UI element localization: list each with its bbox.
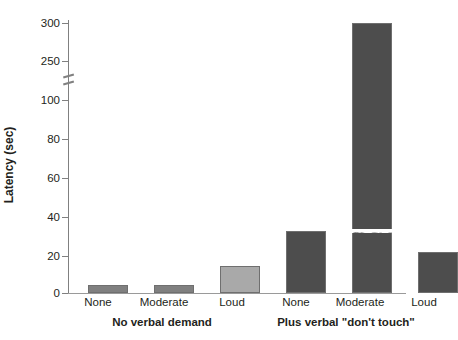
y-axis-title-label: Latency (sec) <box>2 110 16 220</box>
y-tick-300 <box>62 23 68 24</box>
x-label-none-plus-verbal: None <box>266 296 326 308</box>
y-tick-label-0: 0 <box>26 288 60 300</box>
y-tick-100 <box>62 100 68 101</box>
x-axis-line <box>68 293 406 294</box>
bar-moderate-plus-verbal <box>352 23 392 293</box>
y-tick-label-60: 60 <box>26 173 60 185</box>
y-tick-label-300: 300 <box>26 18 60 30</box>
x-label-loud-plus-verbal: Loud <box>396 296 452 308</box>
group-label-plus-verbal-dont-touch: Plus verbal "don't touch" <box>240 316 452 328</box>
x-label-moderate-plus-verbal: Moderate <box>324 296 396 308</box>
y-axis-line <box>68 20 69 293</box>
bar-none-plus-verbal <box>286 231 326 293</box>
group-label-no-verbal-demand: No verbal demand <box>62 316 262 328</box>
bar-loud-plus-verbal <box>418 252 458 293</box>
bar-none-no-verbal <box>88 285 128 293</box>
y-tick-label-250: 250 <box>26 56 60 68</box>
y-tick-60 <box>62 178 68 179</box>
y-tick-0 <box>62 293 68 294</box>
x-label-moderate-no-verbal: Moderate <box>128 296 200 308</box>
y-tick-40 <box>62 217 68 218</box>
plot-area <box>68 20 408 293</box>
y-tick-label-40: 40 <box>26 212 60 224</box>
y-tick-250 <box>62 61 68 62</box>
y-tick-label-100: 100 <box>26 95 60 107</box>
y-tick-label-80: 80 <box>26 134 60 146</box>
bar-loud-no-verbal <box>220 266 260 293</box>
bar-axis-break-mark <box>352 224 392 233</box>
bar-moderate-no-verbal <box>154 285 194 293</box>
y-tick-20 <box>62 256 68 257</box>
y-axis-title: Latency (sec) <box>2 0 16 110</box>
y-tick-80 <box>62 139 68 140</box>
x-label-loud-no-verbal: Loud <box>200 296 264 308</box>
y-tick-label-20: 20 <box>26 251 60 263</box>
x-label-none-no-verbal: None <box>68 296 128 308</box>
